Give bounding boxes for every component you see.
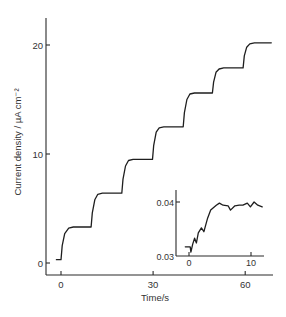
y-tick-label: 0 [38,258,43,269]
main-plot: 01020 03060 Time/s Current density / µA … [12,18,273,303]
inset-x-ticks: 010 [186,252,256,268]
y-tick-label: 20 [32,40,43,51]
x-tick-label: 0 [58,279,63,290]
x-tick-label: 60 [240,279,251,290]
x-tick-label: 30 [148,279,159,290]
inset-y-tick-label: 0.04 [156,198,174,208]
inset-x-tick-label: 0 [186,258,191,268]
y-axis-label: Current density / µA cm⁻² [12,88,23,195]
y-tick-label: 10 [32,149,43,160]
inset-x-tick-label: 10 [246,258,256,268]
x-axis-label: Time/s [141,292,169,303]
main-y-ticks: 01020 [32,40,50,269]
inset-y-tick-label: 0.03 [156,252,174,262]
inset-current-trace [185,202,262,252]
inset-plot: 0.030.04 010 [156,190,264,268]
main-x-ticks: 03060 [58,271,250,290]
chronoamperometry-chart: 01020 03060 Time/s Current density / µA … [0,0,286,317]
main-current-trace [56,43,271,260]
